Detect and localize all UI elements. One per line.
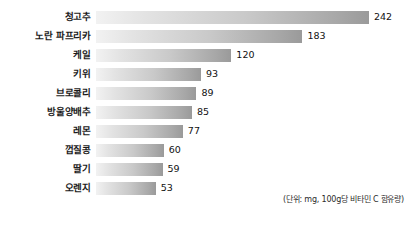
category-label: 키위 bbox=[0, 65, 96, 83]
bar-track: 77 bbox=[96, 122, 416, 140]
bar-value-label: 77 bbox=[188, 122, 200, 140]
table-row: 노란 파프리카 183 bbox=[0, 27, 416, 45]
bar-track: 93 bbox=[96, 65, 416, 83]
category-label: 케일 bbox=[0, 46, 96, 64]
table-row: 방울양배추 85 bbox=[0, 103, 416, 121]
bar bbox=[96, 49, 231, 62]
table-row: 청고추 242 bbox=[0, 8, 416, 26]
category-label: 청고추 bbox=[0, 8, 96, 26]
bar bbox=[96, 87, 196, 100]
bar-value-label: 120 bbox=[236, 46, 254, 64]
table-row: 케일 120 bbox=[0, 46, 416, 64]
vitamin-c-bar-chart: 청고추 242 노란 파프리카 183 케일 120 키위 93 bbox=[0, 0, 416, 228]
category-label: 노란 파프리카 bbox=[0, 27, 96, 45]
category-label: 딸기 bbox=[0, 160, 96, 178]
bar-value-label: 53 bbox=[161, 179, 173, 197]
bar-track: 60 bbox=[96, 141, 416, 159]
bar bbox=[96, 106, 192, 119]
bar-track: 89 bbox=[96, 84, 416, 102]
table-row: 껍질콩 60 bbox=[0, 141, 416, 159]
bar bbox=[96, 11, 369, 24]
bar-value-label: 59 bbox=[168, 160, 180, 178]
bar bbox=[96, 163, 163, 176]
bar-value-label: 93 bbox=[206, 65, 218, 83]
category-label: 브로콜리 bbox=[0, 84, 96, 102]
bar bbox=[96, 68, 201, 81]
chart-plot-area: 청고추 242 노란 파프리카 183 케일 120 키위 93 bbox=[0, 8, 416, 197]
bar-value-label: 85 bbox=[197, 103, 209, 121]
category-label: 오렌지 bbox=[0, 179, 96, 197]
category-label: 레몬 bbox=[0, 122, 96, 140]
bar-track: 242 bbox=[96, 8, 416, 26]
table-row: 딸기 59 bbox=[0, 160, 416, 178]
bar bbox=[96, 144, 164, 157]
bar bbox=[96, 30, 302, 43]
bar-track: 59 bbox=[96, 160, 416, 178]
table-row: 브로콜리 89 bbox=[0, 84, 416, 102]
bar-track: 85 bbox=[96, 103, 416, 121]
bar-value-label: 242 bbox=[374, 8, 392, 26]
bar-value-label: 89 bbox=[201, 84, 213, 102]
chart-annotation: (단위: mg, 100g당 비타민 C 함유량) bbox=[283, 193, 404, 204]
bar-track: 183 bbox=[96, 27, 416, 45]
bar-value-label: 183 bbox=[307, 27, 325, 45]
bar-value-label: 60 bbox=[169, 141, 181, 159]
bar bbox=[96, 125, 183, 138]
table-row: 키위 93 bbox=[0, 65, 416, 83]
bar bbox=[96, 182, 156, 195]
category-label: 껍질콩 bbox=[0, 141, 96, 159]
category-label: 방울양배추 bbox=[0, 103, 96, 121]
table-row: 레몬 77 bbox=[0, 122, 416, 140]
bar-track: 120 bbox=[96, 46, 416, 64]
